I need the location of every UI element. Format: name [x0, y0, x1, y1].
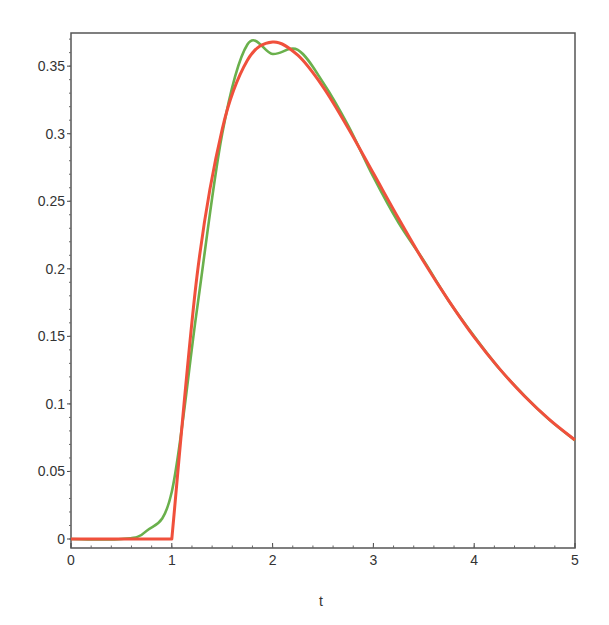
x-tick-label: 5: [571, 552, 579, 568]
plot-frame: [71, 33, 575, 548]
x-tick-label: 3: [370, 552, 378, 568]
y-tick-label: 0.2: [46, 261, 66, 277]
y-tick-label: 0.15: [38, 328, 65, 344]
x-tick-label: 4: [470, 552, 478, 568]
line-chart: 01234500.050.10.150.20.250.30.35 t: [0, 0, 609, 625]
y-tick-label: 0.35: [38, 58, 65, 74]
y-tick-label: 0: [57, 531, 65, 547]
series-line-approximation: [71, 40, 575, 539]
y-tick-label: 0.25: [38, 193, 65, 209]
y-tick-label: 0.1: [46, 396, 66, 412]
tick-labels: 01234500.050.10.150.20.250.30.35: [38, 58, 579, 568]
plot-border: [71, 33, 575, 548]
series-line-exact: [71, 42, 575, 539]
y-tick-label: 0.3: [46, 126, 66, 142]
data-lines: [71, 40, 575, 539]
axis-ticks: [67, 39, 575, 548]
y-tick-label: 0.05: [38, 463, 65, 479]
x-axis-title: t: [319, 593, 323, 609]
x-tick-label: 2: [269, 552, 277, 568]
x-tick-label: 1: [168, 552, 176, 568]
x-tick-label: 0: [67, 552, 75, 568]
